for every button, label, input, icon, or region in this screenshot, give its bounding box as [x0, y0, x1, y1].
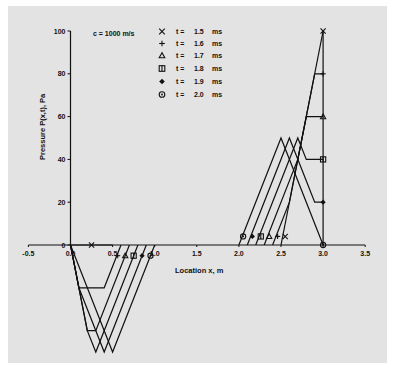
- x-tick-label: 3.5: [360, 250, 370, 257]
- marker-circle-icon: [159, 92, 165, 98]
- y-tick-label: 0: [62, 242, 66, 249]
- legend-t-label: t =: [176, 65, 184, 72]
- data-markers: [89, 28, 326, 258]
- legend-item: t =2.0ms: [159, 91, 222, 98]
- x-tick-label: -0.5: [22, 250, 34, 257]
- marker-diamond-icon: [139, 253, 144, 258]
- legend-item: t =1.6ms: [159, 40, 222, 47]
- legend-t-label: t =: [176, 91, 184, 98]
- y-tick-label: 80: [58, 70, 66, 77]
- x-tick-label: 3.0: [318, 250, 328, 257]
- y-tick-label: 40: [58, 156, 66, 163]
- legend-item: t =1.8ms: [159, 65, 222, 72]
- x-tick-label: 1.5: [192, 250, 202, 257]
- legend-unit: ms: [212, 65, 222, 72]
- marker-diamond-icon: [321, 200, 326, 205]
- marker-square-icon: [131, 253, 136, 258]
- marker-x-icon: [283, 234, 288, 239]
- marker-plus-icon: [159, 41, 165, 47]
- marker-plus-icon: [321, 71, 326, 76]
- legend-t-label: t =: [176, 40, 184, 47]
- legend-time-value: 2.0: [194, 91, 204, 98]
- legend-time-value: 1.5: [194, 28, 204, 35]
- curve-left: [71, 245, 138, 352]
- legend-unit: ms: [212, 40, 222, 47]
- legend-time-value: 1.9: [194, 78, 204, 85]
- wave-speed-annotation: c = 1000 m/s: [93, 30, 135, 37]
- x-axis-label: Location x, m: [175, 266, 224, 275]
- legend-unit: ms: [212, 52, 222, 59]
- x-tick-label: 2.0: [234, 250, 244, 257]
- marker-triangle-icon: [267, 234, 272, 239]
- curve-right: [256, 138, 323, 245]
- legend-t-label: t =: [176, 28, 184, 35]
- y-tick-label: 20: [58, 199, 66, 206]
- legend: t =1.5mst =1.6mst =1.7mst =1.8mst =1.9ms…: [159, 28, 222, 98]
- legend-time-value: 1.6: [194, 40, 204, 47]
- legend-unit: ms: [212, 28, 222, 35]
- legend-time-value: 1.8: [194, 65, 204, 72]
- y-tick-label: 60: [58, 113, 66, 120]
- marker-square-icon: [159, 66, 165, 72]
- marker-x-icon: [159, 29, 165, 35]
- legend-unit: ms: [212, 91, 222, 98]
- legend-unit: ms: [212, 78, 222, 85]
- legend-time-value: 1.7: [194, 52, 204, 59]
- legend-t-label: t =: [176, 52, 184, 59]
- y-tick-label: 100: [54, 28, 66, 35]
- legend-t-label: t =: [176, 78, 184, 85]
- pressure-wave-chart: -0.50.00.51.01.52.02.53.03.5020406080100…: [0, 0, 393, 375]
- legend-item: t =1.9ms: [159, 78, 222, 85]
- legend-item: t =1.7ms: [159, 52, 222, 59]
- marker-diamond-icon: [159, 79, 165, 85]
- marker-triangle-icon: [159, 53, 165, 58]
- legend-item: t =1.5ms: [159, 28, 222, 35]
- y-axis-label: Pressure P(x,t), Pa: [38, 93, 47, 160]
- x-tick-label: 2.5: [276, 250, 286, 257]
- axes: -0.50.00.51.01.52.02.53.03.5020406080100: [22, 28, 370, 258]
